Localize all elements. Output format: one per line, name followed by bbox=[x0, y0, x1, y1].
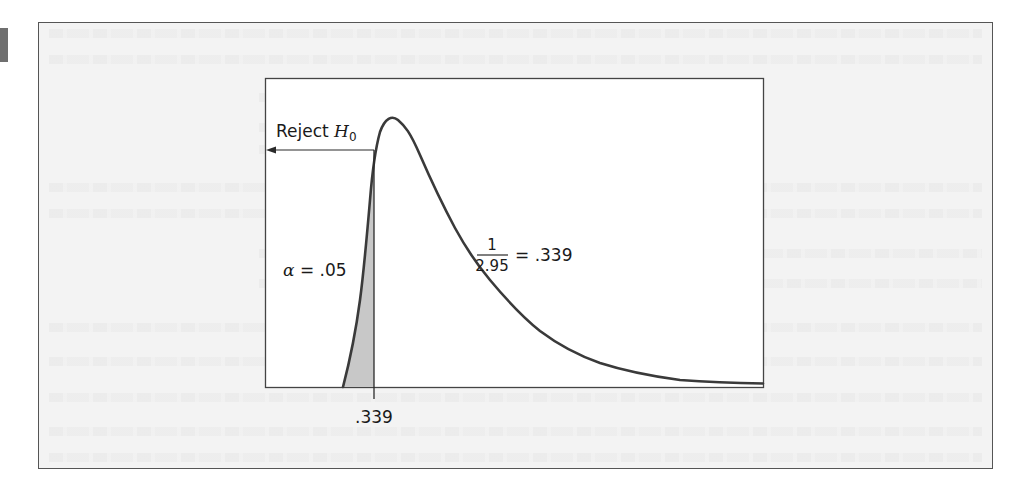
reject-label: Reject H0 bbox=[276, 121, 357, 144]
alpha-label: α = .05 bbox=[283, 260, 347, 280]
critical-value-label: .339 bbox=[355, 407, 393, 427]
fraction-numerator: 1 bbox=[487, 236, 497, 254]
fraction-denominator: 2.95 bbox=[475, 257, 508, 275]
f-distribution-chart: Reject H0 α = .05 .339 1 2.95 = .339 bbox=[0, 0, 1030, 502]
fraction-result: = .339 bbox=[515, 245, 573, 265]
